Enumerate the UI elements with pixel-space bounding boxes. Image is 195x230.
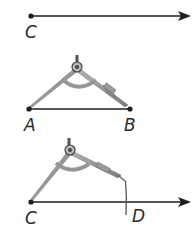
compass-construction-diagram: C A B xyxy=(0,0,195,230)
label-c: C xyxy=(25,22,37,42)
point-c-2 xyxy=(28,199,33,204)
step-3-ray-cd: C D xyxy=(25,138,191,228)
label-b: B xyxy=(124,115,136,135)
compass-icon xyxy=(31,138,125,200)
point-a xyxy=(26,106,31,111)
arc-mark-d xyxy=(126,181,127,215)
label-c-2: C xyxy=(25,208,37,228)
label-d: D xyxy=(132,206,145,226)
step-1-ray: C xyxy=(25,11,191,42)
label-a: A xyxy=(23,115,36,135)
step-2-segment-ab: A B xyxy=(23,55,136,135)
compass-icon xyxy=(29,55,128,108)
point-b xyxy=(127,106,132,111)
point-c xyxy=(28,13,33,18)
